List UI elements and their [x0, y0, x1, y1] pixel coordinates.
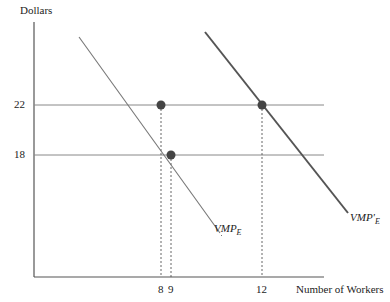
y-tick-22: 22 — [14, 98, 25, 110]
x-axis-title: Number of Workers — [296, 283, 384, 295]
vmp-e-label-sub: E — [237, 228, 242, 237]
vmp-e-label-main: VMP — [214, 222, 237, 234]
vmp-prime-e-label: VMP'E — [350, 211, 380, 226]
vmp-e-label: VMPE — [214, 222, 242, 237]
point-9-18 — [167, 151, 176, 160]
vmp-prime-e-label-main: VMP' — [350, 211, 375, 223]
vmp-prime-e-label-sub: E — [375, 217, 380, 226]
x-tick-9: 9 — [168, 283, 174, 295]
vmp-prime-e-curve — [205, 32, 348, 213]
point-12-22 — [258, 101, 267, 110]
point-8-22 — [157, 101, 166, 110]
vmp-e-curve — [79, 37, 220, 233]
x-tick-8: 8 — [158, 283, 164, 295]
y-tick-18: 18 — [14, 148, 25, 160]
chart-canvas — [0, 0, 390, 302]
y-axis-title: Dollars — [20, 4, 52, 16]
x-tick-12: 12 — [256, 283, 267, 295]
